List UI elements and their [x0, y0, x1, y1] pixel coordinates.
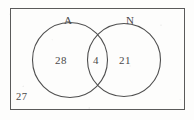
set-n-label: N [126, 15, 134, 26]
region-count-intersection: 4 [93, 55, 99, 66]
set-a-label: A [64, 15, 72, 26]
region-count-outside: 27 [16, 92, 27, 103]
region-count-n-only: 21 [119, 55, 131, 66]
venn-diagram-figure: A N 28 4 21 27 [0, 0, 194, 120]
region-count-a-only: 28 [55, 55, 67, 66]
